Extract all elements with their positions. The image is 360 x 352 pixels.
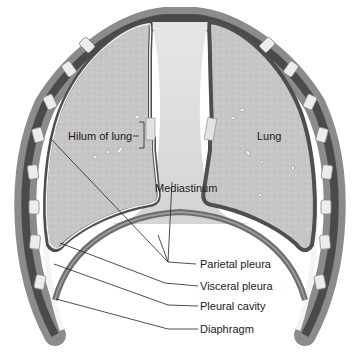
label-pleural-cavity: Pleural cavity	[200, 300, 265, 312]
label-hilum-of-lung: Hilum of lung	[68, 130, 132, 142]
label-mediastinum: Mediastinum	[155, 182, 217, 194]
label-visceral-pleura: Visceral pleura	[200, 280, 273, 292]
label-parietal-pleura: Parietal pleura	[200, 258, 271, 270]
label-lung: Lung	[257, 130, 281, 142]
label-diaphragm: Diaphragm	[200, 323, 254, 335]
pleura-diagram	[0, 0, 360, 352]
